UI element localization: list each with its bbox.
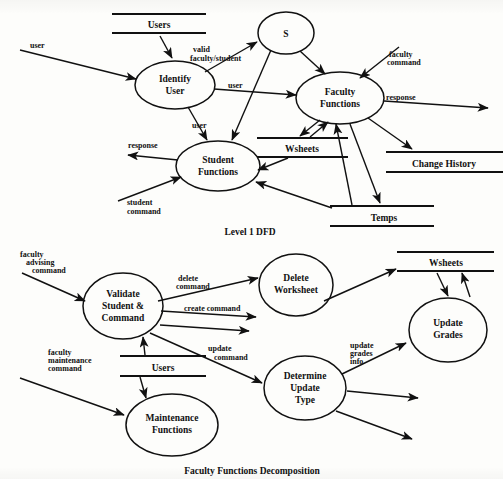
flow-update-command-label-1: update	[208, 344, 232, 353]
flow-users-to-identify-user	[160, 36, 172, 58]
flow-s-to-student-functions	[232, 50, 271, 140]
flow-determine-out-lower	[336, 411, 412, 439]
data-store-wsheets: Wsheets	[257, 138, 348, 157]
data-store-users: Users	[112, 14, 206, 33]
process-validate-student-command: Validate Student & Command	[83, 273, 163, 339]
flow-response-out-student-label: response	[128, 141, 158, 150]
process-student-functions-label-1: Student	[202, 155, 235, 165]
flow-determine-out-mid	[347, 391, 418, 398]
flow-faculty-maintenance-command-label-3: command	[48, 364, 82, 373]
faculty-functions-decomposition-canvas: Wsheets Users Validate Student & Command…	[0, 243, 503, 479]
flow-user-in	[20, 50, 136, 79]
flow-user-to-faculty	[214, 89, 296, 95]
flow-update-grades-info-label-3: info	[350, 357, 363, 366]
flow-response-out-faculty	[384, 101, 488, 108]
data-store-change-history-label: Change History	[412, 159, 476, 169]
flow-response-out-faculty-label: response	[386, 93, 416, 102]
process-faculty-functions: Faculty Functions	[296, 72, 384, 124]
flow-faculty-to-change-history	[368, 118, 412, 149]
flow-temps-to-faculty	[336, 124, 352, 205]
process-s-bubble-label: S	[283, 29, 288, 39]
flow-faculty-advising-command-label-3: command	[32, 266, 66, 275]
flow-user-in-label: user	[30, 41, 45, 50]
process-delete-worksheet: Delete Worksheet	[259, 254, 333, 316]
process-maintenance-functions: Maintenance Functions	[126, 394, 218, 456]
flow-delete-command-label-2: command	[176, 282, 210, 291]
figure-page: Users S Identify User Faculty Functions	[0, 0, 503, 479]
flow-wsheets-to-student	[258, 158, 288, 170]
flow-create-command-secondary	[160, 325, 249, 331]
data-store-users-label: Users	[148, 20, 171, 30]
process-determine-update-type-label-2: Update	[290, 383, 320, 393]
process-identify-user: Identify User	[135, 61, 215, 109]
flow-delete-worksheet-to-wsheets	[324, 269, 396, 301]
flow-users-to-validate	[143, 337, 145, 355]
process-determine-update-type-label-1: Determine	[284, 371, 327, 381]
flow-create-command-label: create command	[184, 304, 241, 313]
process-identify-user-label-1: Identify	[159, 74, 191, 84]
level-1-dfd-figure: Users S Identify User Faculty Functions	[0, 0, 503, 236]
data-store-wsheets-label: Wsheets	[285, 144, 319, 154]
data-store-temps-label: Temps	[371, 213, 398, 223]
data-store-users-lower: Users	[120, 356, 206, 376]
flow-wsheets-to-update-grades	[437, 273, 448, 296]
flow-s-to-faculty-functions	[300, 51, 325, 74]
process-maintenance-functions-label-2: Functions	[152, 425, 192, 435]
flow-update-command-label-2: command	[214, 353, 248, 362]
process-determine-update-type-label-3: Type	[295, 395, 315, 405]
level-1-dfd-caption: Level 1 DFD	[224, 227, 275, 236]
flow-users-to-maintenance	[140, 377, 146, 398]
process-identify-user-label-2: User	[166, 86, 186, 96]
data-store-users-lower-label: Users	[152, 363, 175, 373]
process-validate-label-3: Command	[102, 313, 145, 323]
flow-update-grades-to-wsheets	[462, 273, 470, 297]
flow-wsheets-to-faculty	[310, 122, 328, 137]
process-faculty-functions-label-1: Faculty	[325, 87, 356, 97]
data-store-wsheets-lower-label: Wsheets	[429, 258, 463, 268]
data-store-change-history: Change History	[386, 152, 503, 172]
flow-temps-to-student	[256, 182, 332, 208]
process-delete-worksheet-label-1: Delete	[283, 273, 308, 283]
flow-user-to-faculty-label: user	[228, 81, 243, 90]
data-store-temps: Temps	[330, 206, 434, 226]
flow-student-command-label-1: student	[127, 198, 153, 207]
process-student-functions-label-2: Functions	[198, 167, 238, 177]
flow-user-to-student-label: user	[192, 121, 207, 130]
process-student-functions: Student Functions	[176, 141, 260, 191]
process-validate-label-2: Student &	[102, 301, 144, 311]
process-update-grades-label-2: Grades	[433, 330, 463, 340]
faculty-functions-decomposition-caption: Faculty Functions Decomposition	[184, 466, 320, 476]
data-store-wsheets-lower: Wsheets	[397, 252, 494, 271]
process-update-grades: Update Grades	[409, 298, 487, 362]
faculty-functions-decomposition-figure: Wsheets Users Validate Student & Command…	[0, 243, 503, 479]
flow-valid-faculty-student-label-1: valid	[193, 45, 210, 54]
flow-faculty-advising-command	[22, 273, 85, 301]
process-delete-worksheet-label-2: Worksheet	[274, 285, 319, 295]
flow-faculty-maintenance-command	[20, 378, 124, 415]
process-s-bubble: S	[258, 12, 314, 54]
flow-faculty-command-label-2: command	[387, 58, 421, 67]
process-faculty-functions-label-2: Functions	[320, 99, 360, 109]
flow-faculty-to-wsheets	[300, 120, 320, 136]
flow-student-command-label-2: command	[127, 207, 161, 216]
process-determine-update-type: Determine Update Type	[264, 356, 346, 420]
process-maintenance-functions-label-1: Maintenance	[146, 413, 199, 423]
flow-faculty-to-temps	[350, 124, 380, 203]
flow-valid-faculty-student-label-2: faculty/student	[190, 54, 241, 63]
process-update-grades-label-1: Update	[433, 318, 463, 328]
flow-response-out-student	[128, 155, 178, 160]
process-validate-label-1: Validate	[106, 289, 139, 299]
level-1-dfd-canvas: Users S Identify User Faculty Functions	[0, 0, 503, 236]
